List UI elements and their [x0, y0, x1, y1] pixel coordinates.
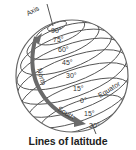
globe-diagram: Axis 90° 75° 60° 45° 30° 15° 0° 15° 30° …: [0, 0, 136, 135]
axis-label: Axis: [25, 4, 40, 17]
diagram-caption: Lines of latitude: [0, 135, 136, 147]
latitude-label-75: 75°: [53, 36, 64, 43]
latitude-label-60: 60°: [58, 46, 69, 53]
latitude-label-0: 0°: [80, 97, 87, 104]
globe-svg: Axis 90° 75° 60° 45° 30° 15° 0° 15° 30° …: [0, 0, 136, 135]
latitude-label-15s: 15°: [84, 110, 95, 117]
latitude-label-45: 45°: [62, 59, 73, 66]
latitude-label-90: 90°: [51, 27, 62, 34]
latitude-label-30s: 30°: [89, 122, 100, 129]
latitude-label-15n: 15°: [73, 85, 84, 92]
axis-line-top: [47, 4, 53, 26]
latitude-label-30n: 30°: [66, 72, 77, 79]
